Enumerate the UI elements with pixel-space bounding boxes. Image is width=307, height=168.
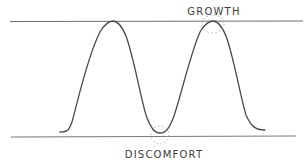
discomfort-highlight-circle xyxy=(151,126,169,144)
growth-label: GROWTH xyxy=(187,6,240,17)
discomfort-label: DISCOMFORT xyxy=(125,149,203,160)
growth-highlight-circle xyxy=(202,15,224,33)
lower-boundary-line xyxy=(11,136,296,137)
growth-discomfort-diagram: GROWTH DISCOMFORT xyxy=(0,0,307,168)
upper-boundary-line xyxy=(10,21,303,22)
wave-curve xyxy=(60,21,265,133)
